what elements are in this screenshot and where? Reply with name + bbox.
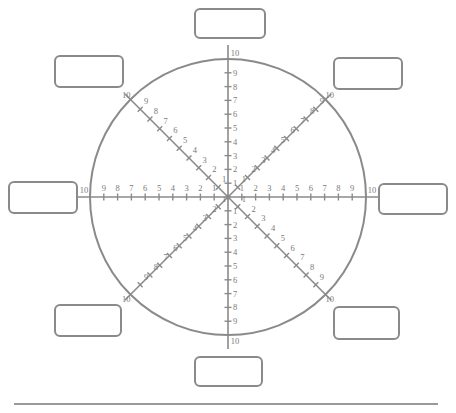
tick-label: 5	[233, 123, 237, 133]
label-box-south-west[interactable]	[54, 304, 122, 337]
spoke-east: 12345678910	[228, 183, 378, 201]
label-box-east[interactable]	[378, 183, 448, 215]
tick-label: 2	[212, 164, 216, 174]
tick-label: 7	[164, 252, 168, 262]
tick-label: 5	[183, 233, 187, 243]
tick-label: 8	[336, 183, 340, 193]
tick-label: 9	[102, 183, 106, 193]
rim-label: 10	[80, 185, 89, 195]
label-box-south-east[interactable]	[333, 306, 400, 340]
tick-label: 4	[193, 223, 198, 233]
tick-label: 2	[253, 183, 257, 193]
radial-scale-diagram: 1234567891012345678910123456789101234567…	[0, 0, 456, 413]
tick-label: 6	[143, 183, 147, 193]
tick-label: 5	[295, 183, 299, 193]
tick-label: 9	[233, 316, 237, 326]
tick-label: 4	[193, 145, 198, 155]
spoke-south-west: 12345678910	[122, 194, 228, 304]
tick-label: 2	[233, 164, 237, 174]
tick-label: 6	[290, 243, 294, 253]
tick-label: 6	[173, 243, 177, 253]
tick-label: 6	[233, 275, 237, 285]
rim-label: 10	[231, 336, 240, 346]
rim-label: 10	[231, 48, 240, 58]
tick-label: 6	[309, 183, 313, 193]
tick-label: 8	[233, 302, 237, 312]
tick-label: 1	[242, 194, 246, 204]
tick-label: 3	[203, 155, 207, 165]
tick-label: 2	[233, 220, 237, 230]
tick-label: 7	[129, 183, 133, 193]
tick-label: 4	[233, 247, 238, 257]
label-box-west[interactable]	[8, 181, 78, 214]
tick-label: 7	[233, 289, 237, 299]
tick-label: 2	[251, 204, 255, 214]
tick-label: 7	[300, 252, 304, 262]
tick-label: 5	[157, 183, 161, 193]
tick-label: 4	[271, 223, 276, 233]
tick-label: 3	[261, 213, 265, 223]
tick-label: 3	[184, 183, 188, 193]
tick-label: 8	[115, 183, 119, 193]
tick-label: 9	[320, 96, 324, 106]
center-point	[226, 195, 231, 200]
tick-label: 4	[171, 183, 176, 193]
tick-label: 5	[281, 233, 285, 243]
spoke-south: 12345678910	[225, 197, 240, 349]
tick-label: 5	[183, 135, 187, 145]
label-box-north[interactable]	[194, 8, 266, 39]
rim-label: 10	[326, 90, 335, 100]
tick-label: 6	[173, 125, 177, 135]
rim-label: 10	[122, 294, 131, 304]
tick-label: 5	[233, 261, 237, 271]
tick-label: 1	[222, 174, 226, 184]
tick-label: 2	[198, 183, 202, 193]
label-box-north-west[interactable]	[54, 55, 124, 88]
rim-label: 10	[326, 294, 335, 304]
tick-label: 7	[164, 116, 168, 126]
rim-label: 10	[122, 90, 131, 100]
tick-label: 4	[281, 183, 286, 193]
tick-label: 3	[233, 233, 237, 243]
tick-label: 3	[203, 213, 207, 223]
tick-label: 9	[144, 272, 148, 282]
tick-label: 4	[233, 137, 238, 147]
tick-label: 8	[154, 262, 158, 272]
tick-label: 8	[154, 106, 158, 116]
tick-label: 8	[310, 262, 314, 272]
spoke-north: 12345678910	[225, 45, 240, 197]
label-box-north-east[interactable]	[333, 57, 403, 90]
tick-label: 7	[322, 183, 326, 193]
tick-label: 6	[233, 109, 237, 119]
spoke-north-west: 12345678910	[122, 90, 228, 197]
tick-label: 3	[233, 151, 237, 161]
spoke-north-east: 12345678910	[228, 90, 334, 197]
tick-label: 2	[212, 204, 216, 214]
tick-label: 9	[233, 68, 237, 78]
spoke-south-east: 12345678910	[228, 194, 334, 304]
answer-line[interactable]	[14, 403, 438, 405]
label-box-south[interactable]	[194, 356, 263, 387]
tick-label: 1	[240, 183, 244, 193]
tick-label: 3	[267, 183, 271, 193]
tick-label: 7	[233, 95, 237, 105]
tick-label: 1	[233, 206, 237, 216]
spoke-west: 12345678910	[78, 183, 228, 201]
tick-label: 9	[320, 272, 324, 282]
rim-label: 10	[368, 185, 377, 195]
tick-label: 8	[233, 82, 237, 92]
tick-label: 9	[350, 183, 354, 193]
tick-label: 9	[144, 96, 148, 106]
